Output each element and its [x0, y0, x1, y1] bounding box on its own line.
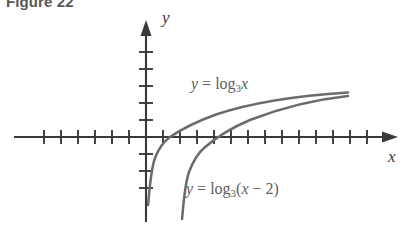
x-axis-group	[14, 132, 398, 143]
y-axis-label: y	[162, 8, 170, 28]
curve1-equals: =	[202, 75, 211, 92]
x-axis-label: x	[388, 147, 396, 167]
curve2-shift: 2	[266, 180, 274, 197]
curve-log3-x-minus-2	[182, 96, 348, 219]
curve2-equals: =	[197, 180, 206, 197]
curve2-close-paren: )	[274, 180, 279, 197]
curve2-arg: x	[241, 180, 248, 197]
y-axis-arrow-icon	[141, 20, 152, 36]
curve1-arg: x	[241, 75, 248, 92]
curve-label-log3-x-minus-2: y = log3(x − 2)	[186, 180, 279, 199]
curve2-minus: −	[253, 180, 262, 197]
curve2-var-y: y	[186, 180, 193, 197]
x-axis-arrow-icon	[382, 132, 398, 143]
curve1-var-y: y	[191, 75, 198, 92]
figure-container: Figure 22	[0, 0, 410, 226]
curve1-log: log	[215, 75, 235, 92]
curve2-log: log	[210, 180, 230, 197]
curve-label-log3-x: y = log3x	[191, 75, 248, 94]
